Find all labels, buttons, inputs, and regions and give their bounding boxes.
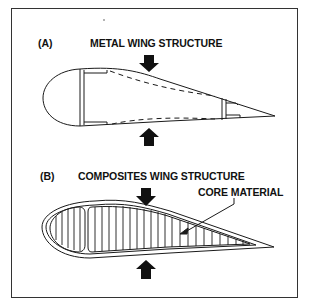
load-arrow-up-b bbox=[136, 260, 156, 279]
main-core-cell bbox=[88, 206, 250, 252]
front-spar bbox=[80, 69, 107, 126]
dashed-stiffener-lines bbox=[110, 71, 215, 124]
load-arrow-down-a bbox=[139, 55, 159, 72]
load-arrow-up-a bbox=[139, 128, 159, 146]
core-material-leader bbox=[180, 198, 234, 234]
rear-spar bbox=[222, 98, 240, 120]
wing-diagram bbox=[0, 0, 310, 306]
scan-speck bbox=[103, 19, 105, 21]
